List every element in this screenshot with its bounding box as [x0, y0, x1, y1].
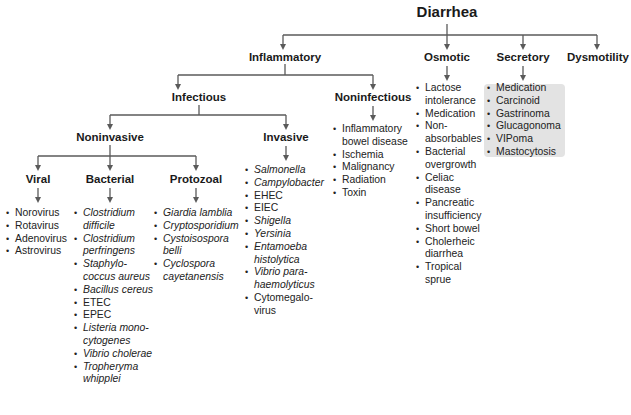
- node-noninvasive: Noninvasive: [76, 131, 144, 143]
- node-osmotic: Osmotic: [424, 51, 470, 63]
- list-item: Cystoisospora belli: [154, 233, 240, 259]
- node-diarrhea: Diarrhea: [417, 3, 478, 20]
- list-item: Cholerheic diarrhea: [416, 236, 482, 262]
- list-item: Astrovirus: [6, 245, 76, 258]
- list-item: Entamoeba histolytica: [245, 241, 331, 267]
- list-item: Gastrinoma: [487, 108, 567, 121]
- list-item: Tropheryma whipplei: [74, 361, 154, 387]
- list-item: Campylobacter: [245, 177, 331, 190]
- list-item: Ischemia: [333, 149, 409, 162]
- list-item: Short bowel: [416, 223, 482, 236]
- list-item: Toxin: [333, 187, 409, 200]
- list-item: Yersinia: [245, 228, 331, 241]
- node-viral: Viral: [26, 173, 51, 185]
- list-item: Clostridium perfringens: [74, 233, 154, 259]
- list-item: Clostridium difficile: [74, 207, 154, 233]
- list-item: Salmonella: [245, 164, 331, 177]
- list-item: Pancreatic insufficiency: [416, 197, 482, 223]
- node-protozoal: Protozoal: [170, 173, 222, 185]
- list-item: Cyclospora cayetanensis: [154, 258, 240, 284]
- node-dysmotility: Dysmotility: [567, 51, 629, 63]
- node-invasive: Invasive: [263, 131, 308, 143]
- list-invasive: Salmonella Campylobacter EHEC EIEC Shige…: [245, 164, 331, 318]
- list-item: Listeria mono-cytogenes: [74, 322, 154, 348]
- list-item: Norovirus: [6, 207, 76, 220]
- list-item: Lactose intolerance: [416, 82, 482, 108]
- list-item: ETEC: [74, 297, 154, 310]
- list-item: Carcinoid: [487, 95, 567, 108]
- list-item: Mastocytosis: [487, 146, 567, 159]
- list-item: Vibrio cholerae: [74, 348, 154, 361]
- list-item: Celiac disease: [416, 172, 482, 198]
- list-viral: Norovirus Rotavirus Adenovirus Astroviru…: [6, 207, 76, 258]
- node-infectious: Infectious: [172, 91, 226, 103]
- node-noninfectious: Noninfectious: [335, 91, 412, 103]
- list-item: Medication: [416, 108, 482, 121]
- node-secretory: Secretory: [496, 51, 549, 63]
- list-item: Cryptosporidium: [154, 220, 240, 233]
- list-item: Non-absorbables: [416, 120, 482, 146]
- list-item: Radiation: [333, 174, 409, 187]
- list-osmotic: Lactose intolerance Medication Non-absor…: [416, 82, 482, 287]
- node-bacterial: Bacterial: [86, 173, 135, 185]
- list-secretory: Medication Carcinoid Gastrinoma Glucagon…: [487, 82, 567, 159]
- list-item: Rotavirus: [6, 220, 76, 233]
- list-item: EPEC: [74, 309, 154, 322]
- list-item: Bacillus cereus: [74, 284, 154, 297]
- list-item: Bacterial overgrowth: [416, 146, 482, 172]
- list-item: Vibrio para-haemolyticus: [245, 266, 331, 292]
- list-item: Shigella: [245, 215, 331, 228]
- list-item: Adenovirus: [6, 233, 76, 246]
- list-protozoal: Giardia lamblia Cryptosporidium Cystoiso…: [154, 207, 240, 284]
- list-bacterial: Clostridium difficile Clostridium perfri…: [74, 207, 154, 386]
- list-item: Medication: [487, 82, 567, 95]
- list-item: Cytomegalo-virus: [245, 292, 331, 318]
- list-item: VIPoma: [487, 133, 567, 146]
- list-item: Malignancy: [333, 161, 409, 174]
- list-noninfectious: Inflammatory bowel disease Ischemia Mali…: [333, 123, 409, 200]
- list-item: Giardia lamblia: [154, 207, 240, 220]
- list-item: Glucagonoma: [487, 120, 567, 133]
- list-item: EHEC: [245, 190, 331, 203]
- list-item: Tropical sprue: [416, 261, 482, 287]
- node-inflammatory: Inflammatory: [249, 51, 321, 63]
- list-item: Inflammatory bowel disease: [333, 123, 409, 149]
- list-item: EIEC: [245, 202, 331, 215]
- list-item: Staphylo-coccus aureus: [74, 258, 154, 284]
